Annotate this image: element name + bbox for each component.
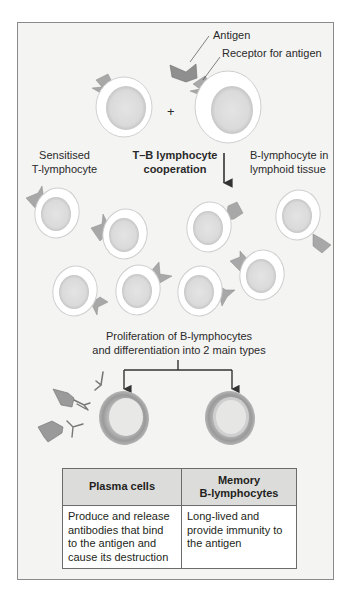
label-line: cooperation: [130, 163, 220, 177]
plasma-cells-description: Produce and release antibodies that bind…: [63, 506, 182, 569]
antigen-icon: [38, 421, 63, 442]
label-line: B-lymphocyte in: [250, 149, 328, 163]
proliferating-cell: [26, 184, 84, 242]
label-line: T–B lymphocyte: [130, 149, 220, 163]
plus-sign: +: [167, 105, 175, 119]
header-line: Memory: [186, 474, 292, 488]
antibody-icon: [74, 400, 90, 410]
proliferating-cell: [48, 262, 108, 320]
proliferating-cell: [111, 261, 172, 319]
cell-line: provide immunity to: [187, 524, 291, 538]
antigen-leader-line: [190, 36, 209, 62]
header-line: Plasma cells: [67, 480, 177, 494]
antibody-icon: [95, 372, 103, 390]
memory-b-cell: [201, 388, 258, 448]
label-line: and differentiation into 2 main types: [60, 344, 298, 358]
b-lymphocyte-cell: [170, 64, 261, 143]
differentiation-arrow: [124, 360, 232, 389]
cell-line: Long-lived and: [187, 510, 291, 524]
proliferating-cell: [182, 198, 243, 256]
plasma-cell: [95, 388, 152, 448]
proliferation-label: Proliferation of B-lymphocytes and diffe…: [60, 330, 298, 357]
antibody-icon: [67, 421, 83, 437]
header-memory-b-lymphocytes: Memory B-lymphocytes: [182, 469, 297, 506]
sensitised-t-lymphocyte-label: Sensitised T-lymphocyte: [22, 149, 107, 176]
proliferating-cell: [230, 246, 289, 304]
antigen-label: Antigen: [213, 29, 250, 43]
label-line: lymphoid tissue: [250, 163, 328, 177]
proliferating-cell: [271, 186, 331, 253]
header-plasma-cells: Plasma cells: [63, 469, 182, 506]
label-line: Sensitised: [22, 149, 107, 163]
cell-line: to the antigen and: [68, 537, 176, 551]
table-header-row: Plasma cells Memory B-lymphocytes: [63, 469, 297, 506]
cell-line: the antigen: [187, 537, 291, 551]
memory-b-lymphocytes-description: Long-lived and provide immunity to the a…: [182, 506, 297, 569]
cell-line: cause its destruction: [68, 551, 176, 565]
antigen-icon: [53, 389, 74, 407]
proliferating-cell: [173, 262, 235, 320]
table-row: Produce and release antibodies that bind…: [63, 506, 297, 569]
antigen-icon: [170, 64, 197, 82]
cell-line: antibodies that bind: [68, 524, 176, 538]
b-lymphocyte-label: B-lymphocyte in lymphoid tissue: [250, 149, 328, 176]
header-line: B-lymphocytes: [186, 487, 292, 501]
cooperation-label: T–B lymphocyte cooperation: [130, 149, 220, 176]
label-line: Proliferation of B-lymphocytes: [60, 330, 298, 344]
receptor-label: Receptor for antigen: [222, 47, 322, 61]
label-line: T-lymphocyte: [22, 163, 107, 177]
cell-line: Produce and release: [68, 510, 176, 524]
t-lymphocyte-cell: [92, 74, 152, 137]
cell-types-table: Plasma cells Memory B-lymphocytes Produc…: [62, 468, 297, 569]
receptor-icon: [313, 234, 331, 253]
proliferating-cell: [91, 205, 152, 263]
